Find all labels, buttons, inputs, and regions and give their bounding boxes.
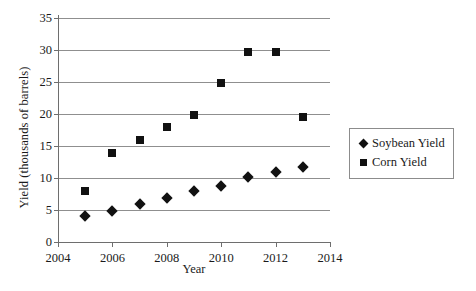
y-tick-label: 0 <box>46 235 52 250</box>
data-point <box>163 123 171 131</box>
data-point <box>216 180 227 191</box>
gridline <box>58 178 330 179</box>
data-point <box>134 198 145 209</box>
y-axis-title: Yield (thousands of barrels) <box>17 28 32 248</box>
legend-item-corn: Corn Yield <box>357 153 445 172</box>
data-point <box>299 113 307 121</box>
y-tick-label: 25 <box>40 75 53 90</box>
gridline <box>58 18 330 19</box>
data-point <box>107 205 118 216</box>
data-point <box>190 111 198 119</box>
x-tick-mark <box>167 242 168 247</box>
y-tick-mark <box>54 178 59 179</box>
y-tick-label: 20 <box>40 107 53 122</box>
data-point <box>188 186 199 197</box>
x-tick-mark <box>330 242 331 247</box>
gridline <box>58 242 330 243</box>
data-point <box>161 192 172 203</box>
data-point <box>108 149 116 157</box>
data-point <box>217 79 225 87</box>
y-tick-mark <box>54 50 59 51</box>
legend-label-soybean: Soybean Yield <box>372 136 445 151</box>
data-point <box>244 48 252 56</box>
gridline <box>58 146 330 147</box>
x-tick-mark <box>112 242 113 247</box>
data-point <box>81 187 89 195</box>
y-tick-label: 30 <box>40 43 53 58</box>
y-tick-mark <box>54 18 59 19</box>
legend-item-soybean: Soybean Yield <box>357 134 445 153</box>
data-point <box>270 167 281 178</box>
data-point <box>297 161 308 172</box>
gridline <box>58 82 330 83</box>
legend-label-corn: Corn Yield <box>372 155 427 170</box>
data-point <box>80 210 91 221</box>
x-axis-title: Year <box>58 262 330 277</box>
chart-legend: Soybean Yield Corn Yield <box>349 128 454 179</box>
y-tick-label: 10 <box>40 171 53 186</box>
y-tick-mark <box>54 114 59 115</box>
x-tick-mark <box>276 242 277 247</box>
chart-figure: Yield (thousands of barrels) 05101520253… <box>0 0 476 291</box>
y-tick-mark <box>54 82 59 83</box>
x-tick-mark <box>58 242 59 247</box>
square-marker-icon <box>357 159 369 166</box>
gridline <box>58 210 330 211</box>
data-point <box>272 48 280 56</box>
data-point <box>243 171 254 182</box>
y-tick-label: 35 <box>40 11 53 26</box>
diamond-marker-icon <box>357 140 369 147</box>
gridline <box>58 50 330 51</box>
data-point <box>136 136 144 144</box>
x-tick-mark <box>221 242 222 247</box>
y-tick-mark <box>54 146 59 147</box>
y-tick-label: 15 <box>40 139 53 154</box>
y-tick-mark <box>54 210 59 211</box>
plot-area: 05101520253035 200420062008201020122014 <box>58 18 330 242</box>
y-tick-label: 5 <box>46 203 52 218</box>
